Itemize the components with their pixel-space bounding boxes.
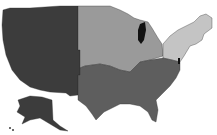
region-northeast[interactable] [163, 14, 212, 62]
region-west-alaska[interactable] [17, 96, 68, 131]
hawaii-island [12, 129, 14, 131]
us-regions-map [0, 0, 217, 135]
region-west[interactable] [2, 6, 80, 96]
region-west-hawaii[interactable] [9, 127, 11, 129]
chesapeake-bay [178, 58, 180, 64]
